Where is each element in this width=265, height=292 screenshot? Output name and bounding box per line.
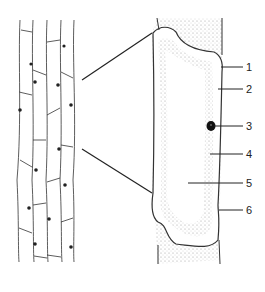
label-4: 4 (246, 148, 252, 160)
label-2: 2 (246, 83, 252, 95)
label-1: 1 (246, 61, 252, 73)
magnification-lines (82, 33, 152, 193)
diagram-root: 1 2 3 4 5 6 (0, 0, 265, 292)
label-3: 3 (246, 120, 252, 132)
magnified-cell (152, 18, 222, 264)
label-5: 5 (246, 177, 252, 189)
label-6: 6 (246, 204, 252, 216)
cell-diagram: 1 2 3 4 5 6 (0, 0, 265, 292)
tissue-strip (17, 20, 75, 262)
